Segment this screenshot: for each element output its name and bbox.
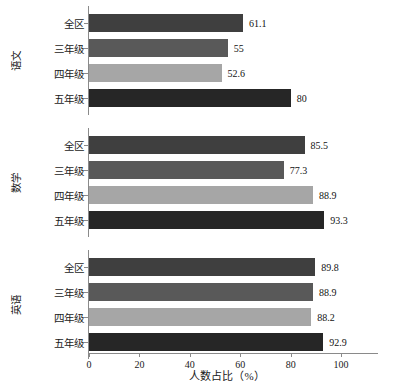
y-axis-segment [88, 6, 89, 115]
bar-数学-三年级 [89, 161, 284, 179]
bar-value-label: 88.2 [317, 312, 335, 323]
bar-value-label: 80 [297, 93, 307, 104]
category-label-三年级: 三年级 [54, 285, 84, 300]
bar-语文-全区 [89, 14, 243, 32]
group-label-text: 语文 [6, 51, 28, 71]
bar-value-label: 93.3 [330, 215, 348, 226]
bar-英语-五年级 [89, 333, 323, 351]
bar-英语-三年级 [89, 283, 313, 301]
bar-数学-四年级 [89, 186, 313, 204]
x-axis-tick [240, 353, 241, 357]
category-label-四年级: 四年级 [54, 310, 84, 325]
category-label-四年级: 四年级 [54, 188, 84, 203]
group-label-2: 英语 [6, 294, 28, 316]
bar-英语-全区 [89, 258, 315, 276]
category-label-五年级: 五年级 [54, 335, 84, 350]
bar-数学-五年级 [89, 211, 324, 229]
category-label-五年级: 五年级 [54, 91, 84, 106]
bar-value-label: 88.9 [319, 190, 337, 201]
plot-area: 61.15552.68085.577.388.993.389.888.988.2… [89, 6, 365, 353]
category-label-全区: 全区 [64, 138, 84, 153]
category-label-全区: 全区 [64, 260, 84, 275]
bar-value-label: 92.9 [329, 337, 347, 348]
bar-语文-三年级 [89, 39, 228, 57]
bar-value-label: 52.6 [228, 68, 246, 79]
x-axis-tick [89, 353, 90, 357]
bar-value-label: 89.8 [321, 262, 339, 273]
category-label-全区: 全区 [64, 16, 84, 31]
bar-value-label: 88.9 [319, 287, 337, 298]
group-label-0: 语文 [6, 50, 28, 72]
y-axis-segment [88, 128, 89, 237]
x-axis-title: 人数占比（%） [89, 367, 365, 383]
category-label-三年级: 三年级 [54, 163, 84, 178]
bar-value-label: 61.1 [249, 18, 267, 29]
bar-value-label: 77.3 [290, 165, 308, 176]
x-axis-line [88, 353, 378, 354]
x-axis-tick [291, 353, 292, 357]
category-label-五年级: 五年级 [54, 213, 84, 228]
bar-英语-四年级 [89, 308, 311, 326]
group-label-1: 数学 [6, 172, 28, 194]
bar-value-label: 85.5 [311, 140, 329, 151]
category-axis-labels: 全区三年级四年级五年级全区三年级四年级五年级全区三年级四年级五年级 [33, 6, 84, 353]
bar-value-label: 55 [234, 43, 244, 54]
x-axis-tick [341, 353, 342, 357]
bar-语文-五年级 [89, 89, 291, 107]
group-label-text: 英语 [6, 295, 28, 315]
y-axis-segment [88, 250, 89, 359]
group-label-text: 数学 [6, 173, 28, 193]
bar-语文-四年级 [89, 64, 222, 82]
bar-数学-全区 [89, 136, 305, 154]
category-label-三年级: 三年级 [54, 41, 84, 56]
x-axis-tick [139, 353, 140, 357]
x-axis-tick [190, 353, 191, 357]
category-label-四年级: 四年级 [54, 66, 84, 81]
chart-container: 语文 数学 英语 全区三年级四年级五年级全区三年级四年级五年级全区三年级四年级五… [0, 0, 417, 386]
